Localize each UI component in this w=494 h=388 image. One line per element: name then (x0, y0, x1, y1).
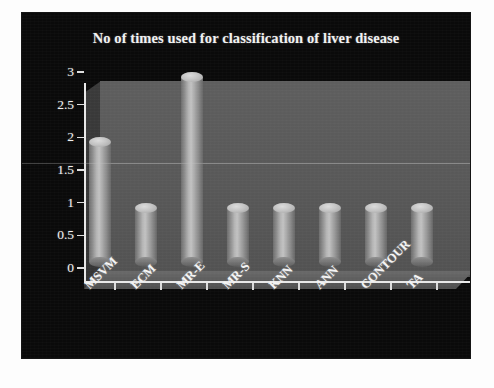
x-tick-knn (298, 283, 300, 290)
bar-mr-s (227, 203, 249, 262)
y-axis-label: 2 (22, 130, 74, 144)
y-axis-line (84, 83, 86, 283)
x-tick-msvm (114, 283, 116, 290)
x-tick-ann (344, 283, 346, 290)
y-axis-label: 1.5 (22, 163, 74, 177)
plot-gridline (100, 163, 470, 164)
y-axis-label: 1 (22, 196, 74, 210)
bar-ta (411, 203, 433, 262)
bar-cap (411, 203, 433, 213)
bar-knn (273, 203, 295, 262)
x-tick-ta (436, 283, 438, 290)
bar-cap (135, 203, 157, 213)
bar-ecm (135, 203, 157, 262)
bar-body (135, 208, 157, 262)
bar-body (365, 208, 387, 262)
y-tick-0.5 (77, 235, 84, 237)
y-tick-3 (77, 71, 84, 73)
bar-cap (319, 203, 341, 213)
bar-body (227, 208, 249, 262)
x-tick-mr-e (206, 283, 208, 290)
bar-cap (181, 72, 203, 82)
bar-body (273, 208, 295, 262)
y-axis-label: 3 (22, 65, 74, 79)
chart-panel: No of times used for classification of l… (22, 13, 470, 358)
x-tick-ecm (160, 283, 162, 290)
y-axis-label: 0.5 (22, 228, 74, 242)
bar-contour (365, 203, 387, 262)
y-axis-label: 2.5 (22, 98, 74, 112)
bar-msvm (89, 137, 111, 262)
y-tick-2 (77, 137, 84, 139)
bar-ann (319, 203, 341, 262)
y-tick-1 (77, 202, 84, 204)
y-tick-1.5 (77, 169, 84, 171)
bar-body (319, 208, 341, 262)
bar-body (181, 77, 203, 262)
y-tick-2.5 (77, 104, 84, 106)
y-axis-label: 0 (22, 261, 74, 275)
plot-area (84, 81, 470, 289)
chart-title: No of times used for classification of l… (22, 30, 470, 47)
bar-body (411, 208, 433, 262)
bar-cap (365, 203, 387, 213)
bar-cap (227, 203, 249, 213)
x-tick-contour (390, 283, 392, 290)
bar-body (89, 142, 111, 262)
bar-cap (273, 203, 295, 213)
x-tick-mr-s (252, 283, 254, 290)
y-tick-0 (77, 267, 84, 269)
bar-mr-e (181, 72, 203, 262)
bar-base (411, 257, 433, 267)
chart-image: No of times used for classification of l… (0, 0, 494, 388)
